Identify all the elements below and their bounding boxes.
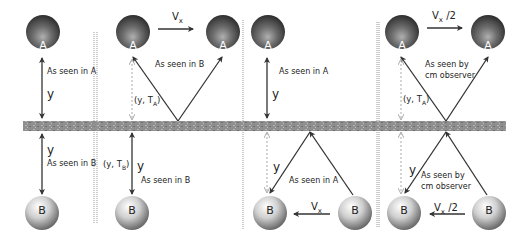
sphere-b-left-label: B [397,205,411,216]
sphere-a-label: A [36,40,50,51]
sphere-a-label: A [261,40,275,51]
velocity-suffix: /2 [443,10,456,21]
sphere-a-right-label: A [481,40,495,51]
label-as-seen-in-a: As seen in A [47,68,96,76]
sphere-b-label: B [35,205,49,216]
coord-y-tb: (y, TB) [103,160,129,171]
coord-end: ) [157,95,160,105]
y-label-bottom: y [273,161,280,173]
sphere-a-left-label: A [395,40,409,51]
sphere-b-right-label: B [482,205,496,216]
label-as-seen-in-a-top: As seen in A [279,68,328,76]
velocity-v: V [172,11,179,22]
label-as-seen-in-a-bottom: As seen in A [289,177,338,185]
y-label-bottom: y [47,144,54,156]
y-label-top: y [272,88,279,100]
label-as-seen-in-b-bottom: As seen in B [141,177,190,185]
coord-text: (y, T [403,94,422,104]
velocity-v: V [432,10,439,21]
velocity-sub: x [179,17,183,25]
velocity-v: V [311,201,318,212]
sphere-b-label: B [125,205,139,216]
velocity-label: Vx [172,12,183,25]
velocity-label: Vx [311,202,322,215]
coord-y-ta: (y, TA) [134,96,160,107]
y-label-top: y [47,88,54,100]
velocity-sub: x [318,207,322,215]
velocity-label-bottom: Vx /2 [434,203,458,216]
velocity-label-top: Vx /2 [432,11,456,24]
coord-y-ta: (y, TA) [403,95,429,106]
label-as-seen-in-b: As seen in B [47,160,96,168]
sphere-a-left-label: A [126,40,140,51]
light-path-up [310,132,353,195]
label-cm-observer-bottom: As seen by cm observer [421,170,471,192]
coord-end: ) [426,94,429,104]
sphere-b-left-label: B [263,205,277,216]
velocity-v: V [434,202,441,213]
y-label-bottom: y [137,160,144,172]
mirror-bar [23,121,506,131]
coord-text: (y, T [103,159,122,169]
sphere-b-right-label: B [348,205,362,216]
label-cm-observer-top: As seen by cm observer [425,59,475,81]
label-as-seen-in-b-top: As seen in B [155,61,204,69]
velocity-suffix: /2 [445,202,458,213]
y-label-bottom: y [409,164,416,176]
coord-text: (y, T [134,95,153,105]
sphere-a-right-label: A [216,40,230,51]
coord-end: ) [126,159,129,169]
